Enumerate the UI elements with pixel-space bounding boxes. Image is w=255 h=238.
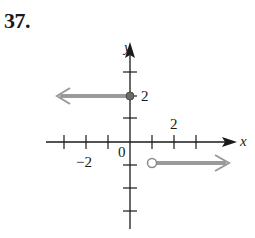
y-axis-label: y	[122, 39, 131, 55]
y-tick-label-2: 2	[141, 88, 149, 104]
x-tick-label-2: 2	[170, 116, 178, 132]
y-axis	[123, 42, 137, 229]
open-endpoint-circle	[148, 159, 157, 168]
origin-label: 0	[118, 144, 126, 160]
upper-ray	[57, 88, 134, 104]
x-tick-label-neg2: −2	[76, 154, 92, 170]
lower-ray	[148, 155, 230, 171]
graph: y x 2 2 −2 0	[0, 0, 255, 238]
x-axis-label: x	[239, 133, 247, 149]
closed-endpoint-dot	[126, 92, 134, 100]
x-axis	[46, 135, 237, 149]
